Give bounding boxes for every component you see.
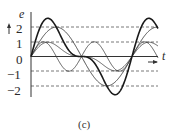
y-tick-2: 2 xyxy=(16,21,23,36)
figure-caption: (c) xyxy=(78,118,91,131)
t-direction-arrow-icon xyxy=(148,60,158,64)
waveform-diagram: e t 2 1 0 −1 −2 (c) xyxy=(0,0,172,139)
y-tick-minus-2: −2 xyxy=(7,83,21,98)
y-tick-1: 1 xyxy=(16,36,23,51)
y-axis-label: e xyxy=(19,7,25,21)
x-axis-label: t xyxy=(162,49,166,63)
y-tick-0: 0 xyxy=(16,52,23,67)
e-direction-arrow-icon xyxy=(7,23,11,34)
y-tick-minus-1: −1 xyxy=(7,67,21,82)
